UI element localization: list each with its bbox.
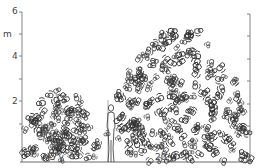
- tree-crown-20y: [103, 25, 256, 167]
- y-tick-6: 6: [12, 7, 18, 16]
- tree-label-5y: 5 y: [50, 153, 64, 162]
- tree-label-20y: 20 y: [155, 153, 175, 162]
- unit-label: m: [3, 30, 12, 39]
- y-tick-2: 2: [12, 97, 18, 106]
- y-axis-right: [247, 14, 250, 162]
- tree-growth-diagram: [0, 0, 258, 168]
- y-tick-4: 4: [12, 52, 18, 61]
- y-axis-left: [19, 12, 22, 162]
